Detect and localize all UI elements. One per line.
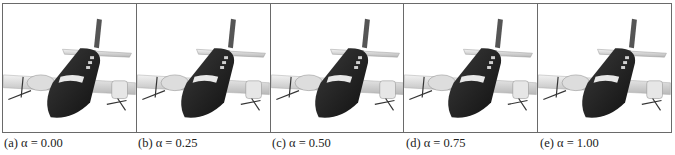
caption-b: (b) α = 0.25 — [136, 136, 270, 151]
caption-a: (a) α = 0.00 — [2, 136, 136, 151]
airplane-image — [137, 4, 270, 132]
figure-captions: (a) α = 0.00 (b) α = 0.25 (c) α = 0.50 (… — [2, 136, 672, 151]
caption-e: (e) α = 1.00 — [538, 136, 672, 151]
airplane-image — [538, 4, 671, 132]
figure-panel-e — [538, 4, 671, 132]
figure-panel-d — [404, 4, 538, 132]
figure-panel-c — [271, 4, 405, 132]
airplane-image — [404, 4, 537, 132]
figure-panel-a — [3, 4, 137, 132]
figure-panel-b — [137, 4, 271, 132]
caption-c: (c) α = 0.50 — [270, 136, 404, 151]
figure-panel-strip — [2, 3, 672, 133]
airplane-image — [3, 4, 136, 132]
airplane-image — [271, 4, 404, 132]
caption-d: (d) α = 0.75 — [404, 136, 538, 151]
